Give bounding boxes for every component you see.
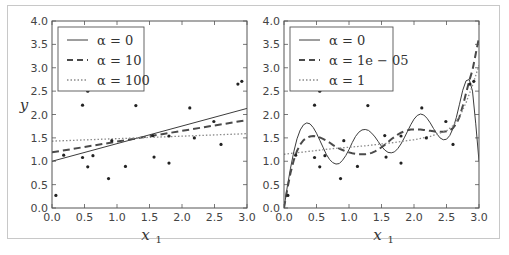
data-point	[313, 104, 316, 107]
plot-area	[52, 80, 247, 197]
data-point	[399, 162, 402, 165]
data-point	[286, 194, 289, 197]
data-point	[420, 106, 423, 109]
figure: 0.00.51.01.52.02.53.00.00.51.01.52.02.53…	[0, 0, 509, 255]
legend-label: α = 0	[97, 33, 133, 48]
y-tick-label: 4.0	[31, 15, 49, 28]
data-point	[167, 162, 170, 165]
x-tick-label: 2.5	[438, 211, 456, 224]
data-point	[151, 134, 154, 137]
y-tick-label: 0.5	[31, 179, 49, 192]
data-point	[81, 156, 84, 159]
data-point	[472, 80, 475, 83]
y-tick-label: 3.0	[263, 62, 281, 75]
x-tick-label: 1.5	[373, 211, 391, 224]
left-plot-ridge-linear: 0.00.51.01.52.02.53.00.00.51.01.52.02.53…	[19, 15, 256, 245]
data-point	[134, 104, 137, 107]
data-point	[193, 136, 196, 139]
x-tick-label: 1.0	[108, 211, 126, 224]
x-tick-label: 0.5	[308, 211, 326, 224]
data-point	[313, 156, 316, 159]
y-tick-label: 1.5	[31, 132, 49, 145]
data-point	[167, 134, 170, 137]
data-point	[81, 104, 84, 107]
x-tick-label: 1.5	[141, 211, 159, 224]
x-tick-label: 1.0	[340, 211, 358, 224]
x-tick-label: 0.5	[76, 211, 94, 224]
y-tick-label: 1.0	[263, 155, 281, 168]
y-tick-label: 1.0	[31, 155, 49, 168]
data-point	[444, 120, 447, 123]
data-point	[451, 143, 454, 146]
data-point	[62, 154, 65, 157]
data-point	[240, 80, 243, 83]
x-tick-label: 2.0	[405, 211, 423, 224]
data-point	[366, 104, 369, 107]
data-point	[342, 139, 345, 142]
data-point	[86, 165, 89, 168]
y-tick-label: 2.5	[263, 85, 281, 98]
y-tick-label: 0.0	[263, 202, 281, 215]
series-line-dashed	[52, 120, 247, 152]
right-plot-ridge-polynomial: 0.00.51.01.52.02.53.00.00.51.01.52.02.53…	[263, 15, 488, 245]
data-point	[107, 177, 110, 180]
y-tick-label: 1.5	[263, 132, 281, 145]
x-axis-label: x	[373, 226, 382, 244]
data-point	[236, 83, 239, 86]
data-point	[294, 154, 297, 157]
data-point	[212, 120, 215, 123]
x-tick-label: 2.0	[173, 211, 191, 224]
data-point	[124, 165, 127, 168]
data-point	[399, 134, 402, 137]
data-point	[356, 165, 359, 168]
data-point	[91, 154, 94, 157]
data-point	[468, 83, 471, 86]
data-point	[54, 194, 57, 197]
data-point	[318, 165, 321, 168]
data-point	[383, 134, 386, 137]
x-tick-label: 2.5	[206, 211, 224, 224]
data-point	[152, 155, 155, 158]
data-point	[110, 139, 113, 142]
y-tick-label: 0.5	[263, 179, 281, 192]
y-tick-label: 3.5	[31, 38, 49, 51]
legend-label: α = 1e − 05	[329, 53, 409, 68]
data-point	[384, 155, 387, 158]
x-tick-label: 3.0	[238, 211, 256, 224]
data-point	[219, 143, 222, 146]
y-tick-label: 4.0	[263, 15, 281, 28]
y-tick-label: 2.0	[263, 109, 281, 122]
data-point	[188, 106, 191, 109]
x-axis-label-subscript: 1	[388, 234, 394, 245]
legend-label: α = 0	[329, 33, 365, 48]
data-point	[323, 154, 326, 157]
legend-label: α = 100	[97, 73, 150, 88]
legend-label: α = 10	[97, 53, 141, 68]
y-tick-label: 2.5	[31, 85, 49, 98]
y-tick-label: 2.0	[31, 109, 49, 122]
x-axis-label-subscript: 1	[156, 234, 162, 245]
y-tick-label: 3.0	[31, 62, 49, 75]
y-axis-label: y	[19, 96, 29, 114]
x-tick-label: 3.0	[470, 211, 488, 224]
data-point	[425, 136, 428, 139]
x-axis-label: x	[141, 226, 150, 244]
data-point	[339, 177, 342, 180]
y-tick-label: 3.5	[263, 38, 281, 51]
y-tick-label: 0.0	[31, 202, 49, 215]
legend-label: α = 1	[329, 73, 365, 88]
